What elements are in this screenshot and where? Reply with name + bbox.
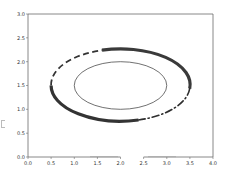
- side-bracket-mark: [1, 120, 5, 128]
- outer-ellipse-thick-top-right: [102, 49, 190, 89]
- x-tick-label: 0.0: [24, 160, 32, 166]
- x-tick-label: 1.0: [70, 160, 78, 166]
- x-tick-label: 1.5: [93, 160, 101, 166]
- inner-ellipse: [74, 62, 167, 110]
- y-tick-label: 0.0: [17, 154, 25, 160]
- x-tick-label: 4.0: [209, 160, 217, 166]
- outer-ellipse-thick-bottom-left: [51, 86, 138, 122]
- x-tick-labels: 0.0 0.5 1.0 1.5 2.0 2.5 3.0 3.5 4.0: [24, 160, 217, 166]
- x-tick-label: 0.5: [47, 160, 55, 166]
- y-tick-label: 1.0: [17, 106, 25, 112]
- chart: 0.0 0.5 1.0 1.5 2.0 2.5 3.0 3.5 4.0 0.0 …: [0, 0, 228, 177]
- x-tick-label: 2.0: [117, 160, 125, 166]
- y-tick-label: 0.5: [17, 130, 25, 136]
- y-tick-labels: 0.0 0.5 1.0 1.5 2.0 2.5 3.0: [17, 11, 25, 160]
- y-tick-label: 2.0: [17, 59, 25, 65]
- y-tick-label: 3.0: [17, 11, 25, 17]
- x-tick-label: 3.5: [186, 160, 194, 166]
- outer-ellipse-dashed-top-left: [51, 50, 102, 85]
- y-tick-label: 2.5: [17, 35, 25, 41]
- y-tick-label: 1.5: [17, 82, 25, 88]
- x-tick-label: 3.0: [163, 160, 171, 166]
- x-tick-label: 2.5: [140, 160, 148, 166]
